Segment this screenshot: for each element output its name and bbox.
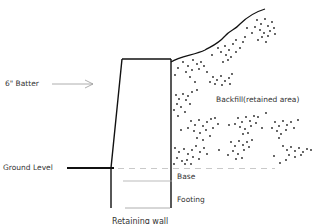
backfill-label: Backfill(retained area) [216, 96, 299, 104]
backfill-slope-line [171, 9, 265, 62]
base-label: Base [177, 173, 195, 181]
diagram-title: Retaining wall [112, 218, 168, 224]
batter-label: 6" Batter [5, 80, 39, 88]
ground-level-label: Ground Level [3, 164, 53, 172]
batter-arrow-icon [52, 80, 93, 88]
footing-label: Footing [177, 196, 205, 204]
retaining-wall-diagram [0, 0, 325, 224]
wall-left-face [111, 59, 122, 208]
backfill-dots [173, 18, 312, 165]
retaining-wall [111, 59, 171, 208]
